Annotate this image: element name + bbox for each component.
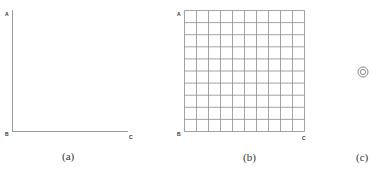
- panel-b-label-c: C: [302, 136, 306, 141]
- panel-b-caption: (b): [243, 152, 256, 163]
- concentric-circles-icon: [340, 0, 379, 173]
- panel-b: A B C (b): [170, 0, 330, 173]
- panel-a-label-b: B: [5, 132, 9, 137]
- panel-a-label-c: C: [129, 135, 133, 140]
- panel-a-axes: [0, 0, 160, 173]
- panel-c: (c): [340, 0, 379, 173]
- panel-b-label-a: A: [177, 12, 181, 17]
- panel-a-caption: (a): [62, 151, 74, 162]
- panel-a-label-a: A: [5, 12, 9, 17]
- panel-a: A B C (a): [0, 0, 160, 173]
- panel-b-grid: [170, 0, 330, 173]
- panel-b-label-b: B: [177, 132, 181, 137]
- panel-c-caption: (c): [356, 152, 368, 163]
